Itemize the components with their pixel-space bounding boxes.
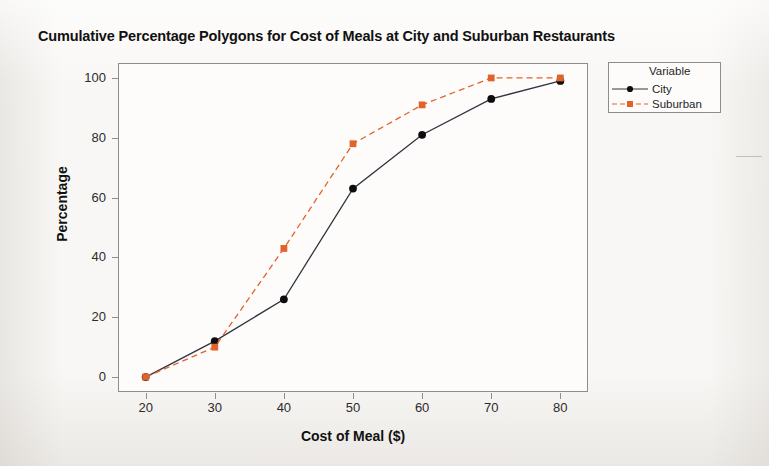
x-tick-label: 20 [126,400,166,415]
x-tick-label: 50 [333,400,373,415]
x-tick-mark [215,393,216,399]
data-point-marker [142,374,149,381]
y-axis-title: Percentage [54,134,70,274]
y-tick-label: 20 [72,309,106,324]
legend-swatch-city-line-icon [611,82,649,96]
y-axis-ticks: 020406080100 [74,0,118,466]
x-tick-mark [353,393,354,399]
series-line [146,78,561,377]
data-point-marker [419,101,426,108]
data-point-marker [280,245,287,252]
legend-item-suburban[interactable]: Suburban [609,96,722,112]
y-tick-label: 100 [72,70,106,85]
x-tick-mark [284,393,285,399]
page-title: Cumulative Percentage Polygons for Cost … [38,28,738,44]
legend-item-city[interactable]: City [609,81,722,97]
scanned-page: Cumulative Percentage Polygons for Cost … [0,0,769,466]
x-axis-title: Cost of Meal ($) [118,428,588,444]
series-city [142,77,565,381]
y-tick-label: 60 [72,190,106,205]
y-tick-label: 40 [72,249,106,264]
legend[interactable]: Variable City Suburban [608,62,721,113]
x-tick-label: 30 [195,400,235,415]
x-tick-label: 60 [402,400,442,415]
data-point-marker [488,75,495,82]
legend-title: Variable [609,65,722,77]
data-point-marker [350,140,357,147]
x-tick-mark [146,393,147,399]
scan-artifact [736,156,762,157]
series-line [146,81,561,377]
legend-label-city: City [652,83,672,95]
data-point-marker [349,185,357,193]
x-tick-label: 80 [540,400,580,415]
y-tick-label: 0 [72,369,106,384]
data-point-marker [211,344,218,351]
x-tick-mark [560,393,561,399]
legend-swatch-suburban-line-icon [611,97,649,111]
legend-label-suburban: Suburban [652,98,702,110]
data-point-marker [280,295,288,303]
plot-area [118,63,588,392]
series-suburban [142,75,564,381]
x-tick-mark [491,393,492,399]
data-point-marker [557,75,564,82]
x-tick-label: 40 [264,400,304,415]
x-tick-label: 70 [471,400,511,415]
x-tick-mark [422,393,423,399]
data-point-marker [418,131,426,139]
y-tick-label: 80 [72,130,106,145]
data-point-marker [487,95,495,103]
